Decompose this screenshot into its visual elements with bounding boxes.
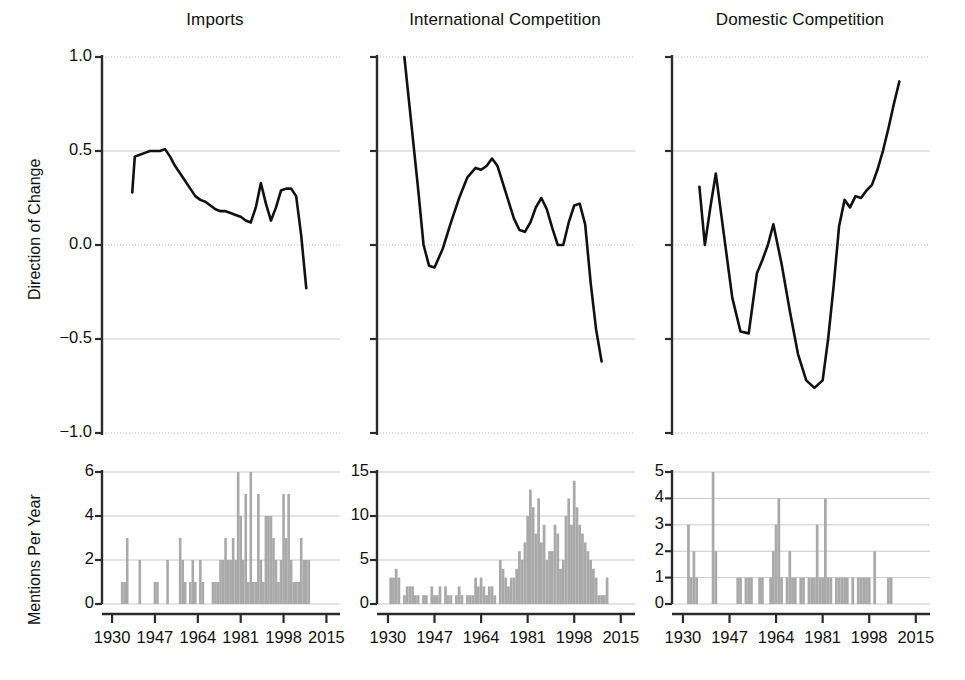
y-tick-domestic-0: 0 — [610, 593, 664, 612]
bar — [482, 586, 485, 604]
bar — [813, 578, 816, 604]
bar — [439, 586, 442, 604]
bar — [474, 578, 477, 604]
bar — [838, 578, 841, 604]
bar — [433, 595, 436, 604]
bar — [821, 578, 824, 604]
y-axis-title-direction-of-change: Direction of Change — [26, 159, 44, 300]
bar — [589, 560, 592, 604]
bar — [824, 498, 827, 604]
y-tick-domestic-1: 1 — [610, 567, 664, 586]
bar — [444, 586, 447, 604]
bar — [199, 560, 202, 604]
bar — [247, 582, 250, 604]
panel-title-imports: Imports — [95, 10, 335, 30]
y-tick-international-10: 10 — [315, 505, 369, 524]
bar — [537, 498, 540, 604]
bar — [529, 490, 532, 604]
bar — [712, 472, 715, 604]
y-tick-imports-6: 6 — [40, 461, 94, 480]
bar — [600, 595, 603, 604]
bar — [491, 586, 494, 604]
bar — [219, 560, 222, 604]
y-tick-imports-4: 4 — [40, 505, 94, 524]
bar — [411, 586, 414, 604]
line-series-domestic — [699, 81, 899, 387]
bar — [295, 582, 298, 604]
bar — [887, 578, 890, 604]
bar — [485, 595, 488, 604]
bar — [554, 525, 557, 604]
y-tick-imports-0: 0 — [40, 593, 94, 612]
bar — [244, 494, 247, 604]
bar — [214, 582, 217, 604]
bar — [436, 595, 439, 604]
bar — [556, 534, 559, 604]
bar — [406, 586, 409, 604]
bar — [873, 551, 876, 604]
bar — [292, 582, 295, 604]
bar — [257, 494, 260, 604]
bar — [775, 525, 778, 604]
bar — [300, 538, 303, 604]
bar — [472, 595, 475, 604]
bar — [403, 595, 406, 604]
y-tick-domestic-2: 2 — [610, 540, 664, 559]
bar — [714, 551, 717, 604]
bar — [249, 472, 252, 604]
bar — [868, 578, 871, 604]
panel-title-domestic: Domestic Competition — [665, 10, 935, 30]
bar — [687, 525, 690, 604]
y-tick-domestic-3: 3 — [610, 514, 664, 533]
y-tick-international-15: 15 — [315, 461, 369, 480]
bar — [229, 560, 232, 604]
bar — [532, 507, 535, 604]
bar — [217, 582, 220, 604]
bar — [518, 551, 521, 604]
bar — [455, 595, 458, 604]
bar — [224, 538, 227, 604]
bar — [267, 516, 270, 604]
panel-title-international: International Competition — [370, 10, 640, 30]
figure-panel-grid: Imports International Competition Domest… — [0, 0, 965, 680]
bar — [389, 578, 392, 604]
x-tick-international-2015: 2015 — [591, 628, 651, 647]
bar — [398, 578, 401, 604]
bar — [422, 595, 425, 604]
bar — [690, 578, 693, 604]
bar — [810, 578, 813, 604]
bar — [307, 560, 310, 604]
bar — [843, 578, 846, 604]
bar — [835, 578, 838, 604]
bar — [565, 516, 568, 604]
bar — [297, 582, 300, 604]
bar — [780, 578, 783, 604]
y-tick-top--0.5: −0.5 — [34, 328, 92, 347]
bar — [123, 582, 126, 604]
bar — [280, 560, 283, 604]
line-series-imports — [132, 149, 306, 288]
bar — [851, 578, 854, 604]
bar — [469, 595, 472, 604]
bar — [587, 551, 590, 604]
bar — [802, 578, 805, 604]
bar — [414, 595, 417, 604]
chart-imports-mentions — [60, 462, 340, 632]
bar — [890, 578, 893, 604]
bar — [603, 595, 606, 604]
bar — [567, 498, 570, 604]
bar — [242, 560, 245, 604]
bar — [573, 481, 576, 604]
x-tick-domestic-2015: 2015 — [886, 628, 946, 647]
bar — [830, 578, 833, 604]
bar — [262, 582, 265, 604]
bar — [535, 534, 538, 604]
bar — [819, 578, 822, 604]
chart-international-direction — [355, 45, 635, 445]
bar — [862, 578, 865, 604]
bar — [761, 578, 764, 604]
bar — [166, 560, 169, 604]
bar — [179, 538, 182, 604]
bar — [237, 472, 240, 604]
bar — [282, 494, 285, 604]
